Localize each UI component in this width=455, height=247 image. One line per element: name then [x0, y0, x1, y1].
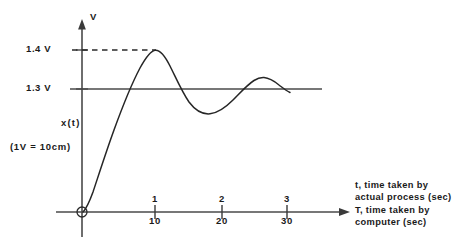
series-step-response — [83, 50, 290, 212]
series-label-xt: x(t) — [61, 117, 81, 128]
x-tick-label-secondary-10: 10 — [149, 215, 161, 226]
scale-note: (1V = 10cm) — [10, 141, 71, 152]
y-axis — [78, 19, 86, 237]
x-tick-label-secondary-20: 20 — [216, 215, 228, 226]
x-axis-description-line-2: actual process (sec) — [355, 191, 451, 203]
x-axis — [56, 208, 350, 216]
x-tick-label-primary-3: 3 — [284, 193, 290, 204]
y-axis-title: V — [90, 11, 97, 22]
x-tick-label-primary-1: 1 — [152, 193, 158, 204]
y-axis-tick-label-lower: 1.3 V — [26, 82, 51, 93]
x-axis-description: t, time taken by actual process (sec) T,… — [355, 179, 451, 228]
y-axis-tick-label-upper: 1.4 V — [26, 43, 51, 54]
x-axis-description-line-1: t, time taken by — [355, 179, 451, 191]
x-axis-description-line-4: computer (sec) — [355, 216, 451, 228]
x-tick-label-secondary-30: 30 — [281, 215, 293, 226]
x-axis-description-line-3: T, time taken by — [355, 204, 451, 216]
x-tick-label-primary-2: 2 — [219, 193, 225, 204]
